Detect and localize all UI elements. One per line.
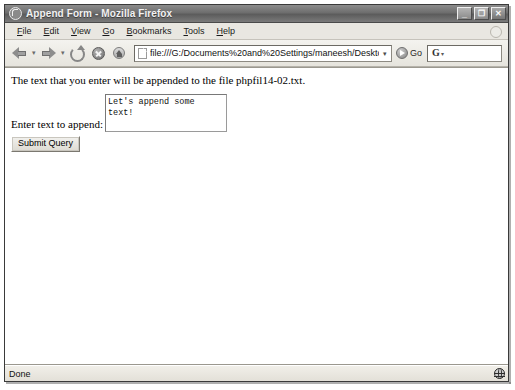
go-arrow-icon xyxy=(396,47,408,59)
forward-button[interactable] xyxy=(38,43,58,63)
status-text: Done xyxy=(5,367,490,381)
menu-help-label: elp xyxy=(223,26,235,36)
browser-window: Append Form - Mozilla Firefox _ ❐ ✕ File… xyxy=(4,4,509,382)
menu-go-label: o xyxy=(109,26,114,36)
forward-arrow-icon xyxy=(41,47,56,60)
menu-tools[interactable]: Tools xyxy=(177,24,210,39)
minimize-icon: _ xyxy=(458,10,471,18)
home-icon xyxy=(112,46,127,60)
menu-view-label: iew xyxy=(77,26,91,36)
append-form-row: Enter text to append: Let's append some … xyxy=(11,94,508,132)
submit-query-button[interactable]: Submit Query xyxy=(11,136,80,152)
stop-icon xyxy=(92,47,105,60)
menu-bookmarks[interactable]: Bookmarks xyxy=(120,24,177,39)
search-dropdown-icon[interactable]: ▾ xyxy=(441,50,444,57)
menu-tools-label: ools xyxy=(188,26,205,36)
firefox-icon xyxy=(9,7,22,20)
page-favicon-icon xyxy=(138,48,147,59)
go-label: Go xyxy=(410,48,422,58)
close-icon: ✕ xyxy=(492,8,505,19)
search-box[interactable]: G ▾ xyxy=(427,45,502,62)
menu-edit-label: dit xyxy=(50,26,60,36)
reload-button[interactable] xyxy=(67,43,87,63)
page-description-text: The text that you enter will be appended… xyxy=(11,74,508,87)
page-viewport: The text that you enter will be appended… xyxy=(5,67,508,365)
close-button[interactable]: ✕ xyxy=(491,7,506,20)
url-input[interactable]: file:///G:/Documents%20and%20Settings/ma… xyxy=(150,46,379,61)
back-button[interactable] xyxy=(9,43,29,63)
minimize-button[interactable]: _ xyxy=(457,7,472,20)
browser-screenshot: Append Form - Mozilla Firefox _ ❐ ✕ File… xyxy=(0,0,515,390)
back-arrow-icon xyxy=(12,47,27,60)
menu-bar: File Edit View Go Bookmarks Tools Help xyxy=(5,23,508,40)
url-dropdown-icon[interactable]: ▾ xyxy=(379,46,391,61)
append-text-label: Enter text to append: xyxy=(11,118,103,132)
forward-dropdown-icon[interactable]: ▾ xyxy=(59,43,66,63)
restore-icon: ❐ xyxy=(475,8,488,19)
menu-file-label: ile xyxy=(23,26,32,36)
back-dropdown-icon[interactable]: ▾ xyxy=(30,43,37,63)
home-button[interactable] xyxy=(109,43,129,63)
menu-view[interactable]: View xyxy=(65,24,96,39)
menu-file[interactable]: File xyxy=(11,24,38,39)
google-logo-icon: G xyxy=(432,46,440,60)
toolbar-grippy-icon xyxy=(490,26,502,38)
window-shadow-right xyxy=(509,6,511,384)
window-title: Append Form - Mozilla Firefox xyxy=(26,8,457,19)
globe-icon xyxy=(494,368,505,379)
title-bar[interactable]: Append Form - Mozilla Firefox _ ❐ ✕ xyxy=(5,5,508,23)
menu-edit[interactable]: Edit xyxy=(38,24,66,39)
stop-button[interactable] xyxy=(88,43,108,63)
address-bar[interactable]: file:///G:/Documents%20and%20Settings/ma… xyxy=(134,45,392,62)
menu-bookmarks-label: ookmarks xyxy=(132,26,171,36)
go-button[interactable]: Go xyxy=(396,47,422,59)
navigation-toolbar: ▾ ▾ file:///G:/Documents%20and%20Setting… xyxy=(5,40,508,67)
menu-help[interactable]: Help xyxy=(210,24,241,39)
window-controls: _ ❐ ✕ xyxy=(457,7,506,20)
window-shadow-bottom xyxy=(6,382,511,384)
restore-button[interactable]: ❐ xyxy=(474,7,489,20)
append-text-textarea[interactable]: Let's append some text! xyxy=(105,94,227,132)
menu-go[interactable]: Go xyxy=(96,24,120,39)
security-indicator[interactable] xyxy=(490,368,508,379)
reload-icon xyxy=(70,46,84,60)
status-bar: Done xyxy=(5,365,508,381)
